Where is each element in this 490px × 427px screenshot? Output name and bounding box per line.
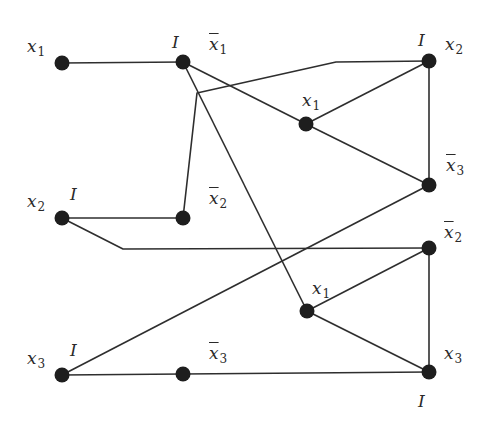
- edge-B-C: [183, 62, 306, 124]
- marker-node-K: I: [418, 393, 425, 410]
- marker-node-F: I: [70, 186, 77, 203]
- node-K: [422, 365, 437, 380]
- label-node-C: x1: [302, 92, 320, 112]
- node-J: [300, 304, 315, 319]
- label-node-H: x2: [444, 224, 462, 244]
- graph-edges: [0, 0, 490, 427]
- label-node-A: x1: [27, 38, 45, 58]
- edge-F-H: [62, 218, 429, 249]
- marker-node-L: I: [70, 342, 77, 359]
- label-node-F: x2: [27, 193, 45, 213]
- label-node-M: x3: [209, 345, 227, 365]
- edge-B-J: [183, 62, 307, 311]
- node-F: [55, 211, 70, 226]
- edge-L-E: [62, 185, 429, 375]
- edge-L-M: [62, 374, 183, 375]
- edge-C-D: [306, 61, 429, 124]
- node-C: [299, 117, 314, 132]
- node-D: [422, 54, 437, 69]
- graph-diagram: x1 I x1 x1 I x2 x3 x2 I x2 x2 x1 x3 I x3…: [0, 0, 490, 427]
- node-G: [176, 211, 191, 226]
- label-node-G: x2: [209, 190, 227, 210]
- label-node-B: x1: [209, 36, 227, 56]
- edge-A-B: [62, 62, 183, 63]
- node-L: [55, 368, 70, 383]
- node-E: [422, 178, 437, 193]
- edge-C-E: [306, 124, 429, 185]
- edge-J-K: [307, 311, 429, 372]
- edge-M-K: [183, 372, 429, 374]
- node-H: [422, 241, 437, 256]
- label-node-E: x3: [446, 157, 464, 177]
- node-B: [176, 55, 191, 70]
- label-node-D: x2: [445, 36, 463, 56]
- label-node-K: x3: [444, 345, 462, 365]
- marker-node-D: I: [418, 32, 425, 49]
- label-node-J: x1: [312, 280, 330, 300]
- node-M: [176, 367, 191, 382]
- label-node-L: x3: [27, 350, 45, 370]
- node-A: [55, 56, 70, 71]
- marker-node-B: I: [172, 34, 179, 51]
